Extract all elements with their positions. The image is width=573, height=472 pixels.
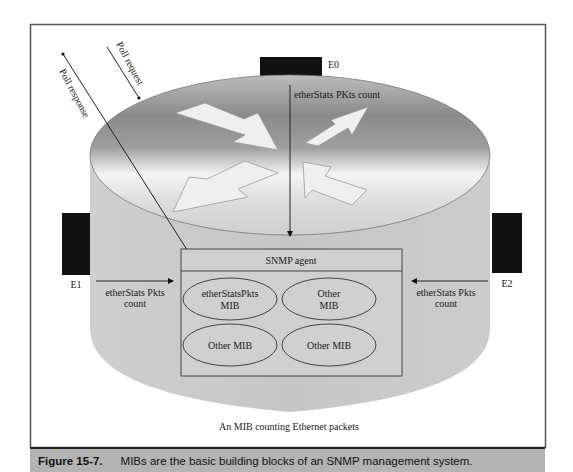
mib-label-1a: etherStatsPkts bbox=[202, 288, 259, 299]
label-e0: E0 bbox=[328, 59, 339, 70]
mib-label-2a: Other bbox=[318, 288, 341, 299]
label-e1: E1 bbox=[70, 279, 81, 290]
figure-subtitle: An MIB counting Ethernet packets bbox=[219, 421, 359, 432]
mib-label-2b: MIB bbox=[320, 300, 339, 311]
port-e2-block bbox=[492, 213, 522, 273]
caption-bar: Figure 15-7. MIBs are the basic building… bbox=[30, 447, 545, 472]
figure: E0 E1 E2 Poll request Poll response ethe… bbox=[0, 0, 573, 472]
label-e2: E2 bbox=[501, 278, 512, 289]
mib-label-4: Other MIB bbox=[307, 340, 351, 351]
agent-title: SNMP agent bbox=[265, 255, 316, 266]
label-left-count-1: etherStats Pkts bbox=[105, 287, 164, 298]
port-e0-block bbox=[260, 57, 322, 76]
mib-label-3: Other MIB bbox=[208, 340, 252, 351]
label-right-count-1: etherStats Pkts bbox=[416, 287, 475, 298]
mib-label-1b: MIB bbox=[221, 300, 240, 311]
figure-number: Figure 15-7. bbox=[38, 455, 103, 467]
diagram-canvas: E0 E1 E2 Poll request Poll response ethe… bbox=[0, 0, 573, 472]
label-left-count-2: count bbox=[124, 298, 146, 309]
label-right-count-2: count bbox=[435, 298, 457, 309]
figure-caption: MIBs are the basic building blocks of an… bbox=[121, 455, 473, 467]
label-top-count: etherStats PKts count bbox=[294, 89, 380, 100]
port-e1-block bbox=[62, 213, 90, 275]
snmp-agent-box bbox=[181, 249, 402, 376]
